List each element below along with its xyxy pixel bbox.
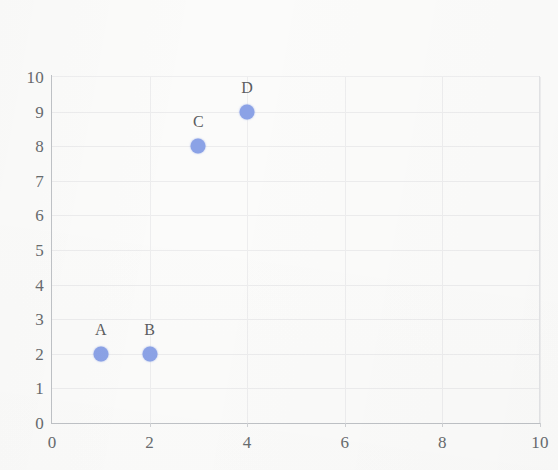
data-point-marker[interactable] [240,104,255,119]
x-axis-tick-labels: 0246810 [0,434,558,458]
scatter-chart: ABCD 012345678910 0246810 [0,0,558,470]
x-axis-tick-label: 6 [325,434,365,451]
x-axis-line [51,423,540,424]
y-axis-tick-label: 9 [10,103,44,120]
y-axis-tick-label: 4 [10,276,44,293]
y-axis-tick-label: 8 [10,138,44,155]
gridline-horizontal [52,250,540,251]
x-axis-tick-label: 0 [32,434,72,451]
data-point-marker[interactable] [93,346,108,361]
gridline-vertical [150,77,151,423]
data-point-label: C [193,114,204,130]
plot-area: ABCD [52,77,540,423]
gridline-horizontal [52,319,540,320]
gridline-horizontal [52,215,540,216]
x-axis-tick-mark [247,423,248,427]
data-point-label: B [144,322,155,338]
x-axis-tick-label: 8 [422,434,462,451]
y-axis-tick-label: 3 [10,311,44,328]
x-axis-tick-label: 2 [130,434,170,451]
gridline-vertical [442,77,443,423]
y-axis-tick-labels: 012345678910 [0,0,44,470]
gridline-horizontal [52,285,540,286]
x-axis-tick-label: 4 [227,434,267,451]
plot-right-border [539,76,540,424]
data-point-marker[interactable] [142,346,157,361]
data-point-label: D [241,80,253,96]
y-axis-tick-label: 0 [10,415,44,432]
x-axis-tick-mark [150,423,151,427]
gridline-horizontal [52,388,540,389]
gridline-vertical [247,77,248,423]
gridline-horizontal [52,354,540,355]
x-axis-tick-label: 10 [520,434,558,451]
gridline-horizontal [52,181,540,182]
y-axis-tick-label: 6 [10,207,44,224]
x-axis-tick-mark [345,423,346,427]
gridline-horizontal [52,112,540,113]
y-axis-tick-label: 10 [10,69,44,86]
y-axis-tick-label: 1 [10,380,44,397]
data-point-marker[interactable] [191,139,206,154]
data-point-label: A [95,322,107,338]
gridline-vertical [345,77,346,423]
y-axis-line [51,75,52,424]
gridline-vertical [540,77,541,423]
x-axis-tick-mark [442,423,443,427]
x-axis-tick-mark [540,423,541,427]
y-axis-tick-label: 5 [10,242,44,259]
gridline-horizontal [52,146,540,147]
y-axis-tick-label: 2 [10,345,44,362]
plot-top-border [52,76,540,77]
y-axis-tick-label: 7 [10,172,44,189]
